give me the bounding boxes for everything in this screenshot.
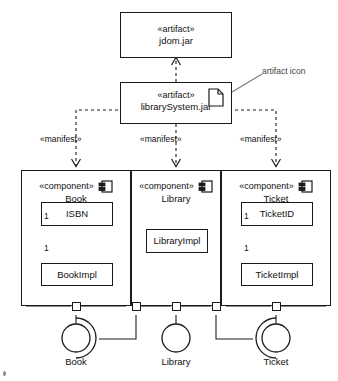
- class-isbn[interactable]: ISBN: [41, 202, 113, 226]
- manifest-label-book: «manifest»: [40, 134, 82, 144]
- wire-book-socket-to-library-port: [99, 315, 136, 339]
- component-icon: [298, 180, 313, 193]
- interface-label-book: Book: [46, 356, 106, 367]
- component-library-stereotype: «component»: [139, 181, 194, 192]
- annotation-leader-line: [232, 74, 262, 92]
- component-icon: [198, 180, 213, 193]
- class-ticketid[interactable]: TicketID: [241, 202, 313, 226]
- component-ticket-stereotype: «component»: [239, 181, 294, 192]
- interface-label-ticket: Ticket: [246, 356, 306, 367]
- multiplicity-book-source: 1: [44, 243, 49, 253]
- class-ticketid-label: TicketID: [260, 208, 294, 220]
- class-ticketimpl[interactable]: TicketImpl: [241, 263, 313, 286]
- class-bookimpl[interactable]: BookImpl: [41, 263, 113, 286]
- class-ticketimpl-label: TicketImpl: [256, 269, 299, 281]
- component-library-name: Library: [132, 193, 220, 205]
- artifact-librarysystem-jar[interactable]: «artifact» librarySystem.jar: [120, 82, 232, 124]
- class-bookimpl-label: BookImpl: [57, 269, 97, 281]
- artifact-jdom-stereotype: «artifact»: [157, 24, 194, 35]
- multiplicity-ticket-target: 1: [244, 211, 249, 221]
- component-book[interactable]: «component» Book ISBN BookImpl: [21, 170, 131, 306]
- interface-label-library: Library: [146, 356, 206, 367]
- class-libraryimpl[interactable]: LibraryImpl: [146, 229, 208, 253]
- annotation-artifact-icon-label: artifact icon: [262, 66, 305, 76]
- class-libraryimpl-label: LibraryImpl: [154, 235, 201, 247]
- multiplicity-ticket-source: 1: [244, 243, 249, 253]
- port-ticket[interactable]: [272, 302, 281, 311]
- component-book-stereotype: «component»: [39, 181, 94, 192]
- provided-interface-ball-book: [62, 324, 90, 352]
- port-book[interactable]: [72, 302, 81, 311]
- port-library-left[interactable]: [132, 302, 141, 311]
- artifact-jdom-name: jdom.jar: [159, 35, 193, 47]
- component-library[interactable]: «component» Library LibraryImpl: [131, 170, 221, 306]
- wire-ticket-socket-to-library-port: [216, 315, 253, 339]
- manifest-label-ticket: «manifest»: [240, 134, 282, 144]
- class-isbn-label: ISBN: [66, 208, 88, 220]
- port-library-right[interactable]: [212, 302, 221, 311]
- artifact-document-icon: [208, 88, 224, 107]
- component-icon: [98, 180, 113, 193]
- artifact-jdom-jar[interactable]: «artifact» jdom.jar: [120, 12, 232, 58]
- multiplicity-book-target: 1: [44, 211, 49, 221]
- provided-interface-ball-library: [162, 324, 190, 352]
- manifest-label-library: «manifest»: [140, 134, 182, 144]
- port-library-center[interactable]: [172, 302, 181, 311]
- provided-interface-ball-ticket: [262, 324, 290, 352]
- uml-component-diagram: «artifact» jdom.jar «artifact» librarySy…: [0, 0, 338, 381]
- component-ticket[interactable]: «component» Ticket TicketID TicketImpl: [221, 170, 331, 306]
- scan-speck: [3, 371, 6, 376]
